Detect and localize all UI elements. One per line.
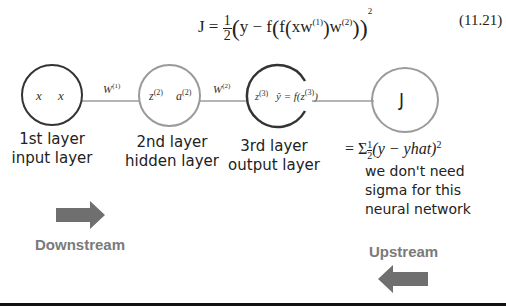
- input-x1: x: [36, 88, 42, 104]
- input-x2: x: [58, 88, 64, 104]
- hidden-layer-node: [138, 64, 201, 127]
- note-line-1: we don't need: [365, 162, 471, 181]
- note-line-3: neural network: [365, 200, 471, 219]
- upstream-arrow-icon: [376, 265, 428, 293]
- hidden-a2: a(2): [176, 88, 191, 104]
- edge-input-hidden: [82, 100, 140, 102]
- output-yhat: ŷ = f(z(3)): [276, 88, 318, 102]
- edge-hidden-output: [200, 100, 246, 102]
- hidden-layer-title: 2nd layer: [118, 133, 226, 152]
- sigma-note: we don't need sigma for this neural netw…: [365, 162, 471, 219]
- downstream-label: Downstream: [35, 236, 125, 253]
- edge-output-cost: [312, 100, 374, 102]
- input-layer-node: [21, 64, 83, 126]
- input-layer-subtitle: input layer: [0, 149, 104, 168]
- weight-w2-label: W(2): [213, 82, 230, 95]
- hidden-layer-label: 2nd layer hidden layer: [118, 133, 226, 171]
- loss-equation: J = 12(y − f(f(xw(1))w(2)))2: [198, 6, 372, 43]
- note-line-2: sigma for this: [365, 181, 471, 200]
- cost-node: [371, 67, 439, 133]
- output-layer-label: 3rd layer output layer: [224, 137, 324, 175]
- input-layer-title: 1st layer: [0, 130, 104, 149]
- output-z3: z(3): [255, 89, 268, 102]
- cost-formula: = Σ12(y − yhat)2: [345, 139, 441, 161]
- hidden-z2: z(2): [149, 88, 163, 104]
- output-layer-subtitle: output layer: [224, 156, 324, 175]
- weight-w1-label: W(1): [103, 82, 120, 95]
- input-layer-label: 1st layer input layer: [0, 130, 104, 168]
- upstream-label: Upstream: [369, 243, 438, 260]
- output-layer-title: 3rd layer: [224, 137, 324, 156]
- cost-j-label: J: [399, 90, 404, 110]
- equation-number: (11.21): [459, 12, 502, 29]
- bottom-rule: [0, 303, 506, 306]
- hidden-layer-subtitle: hidden layer: [118, 152, 226, 171]
- downstream-arrow-icon: [56, 201, 108, 229]
